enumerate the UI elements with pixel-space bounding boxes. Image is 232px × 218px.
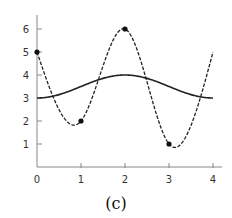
data-point-marker — [78, 118, 83, 123]
x-tick-label: 0 — [34, 174, 40, 185]
data-point-marker — [34, 49, 39, 54]
y-tick-label: 3 — [23, 93, 29, 104]
x-tick-label: 2 — [122, 174, 128, 185]
y-tick-label: 5 — [23, 47, 29, 58]
x-tick-label: 4 — [210, 174, 216, 185]
y-tick-label: 4 — [23, 70, 29, 81]
plot-area — [34, 26, 213, 147]
axes — [37, 15, 222, 167]
data-point-marker — [122, 26, 127, 31]
y-ticks: 123456 — [23, 24, 42, 150]
data-markers — [34, 26, 171, 146]
y-tick-label: 2 — [23, 116, 29, 127]
x-tick-label: 1 — [78, 174, 84, 185]
x-tick-label: 3 — [166, 174, 172, 185]
y-tick-label: 6 — [23, 24, 29, 35]
dashed-curve — [37, 29, 213, 148]
x-ticks: 01234 — [34, 163, 216, 185]
chart: 123456 01234 (c) — [0, 0, 232, 218]
y-tick-label: 1 — [23, 139, 29, 150]
data-point-marker — [166, 141, 171, 146]
solid-curve — [37, 75, 213, 98]
figure-caption: (c) — [105, 194, 126, 213]
